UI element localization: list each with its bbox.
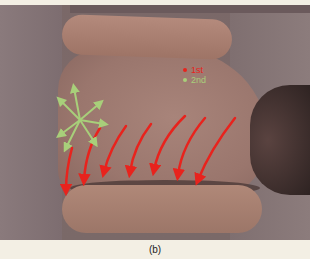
- figure-caption: (b): [0, 240, 310, 259]
- legend-label: 1st: [191, 65, 203, 75]
- red-arrows-icon: [66, 116, 235, 190]
- green-arrows-icon: [60, 88, 104, 148]
- green-dot-icon: [183, 78, 187, 82]
- arrow-overlay: [0, 5, 310, 240]
- massage-photo: 1st 2nd: [0, 5, 310, 240]
- legend-item-2nd: 2nd: [183, 75, 206, 85]
- legend: 1st 2nd: [183, 65, 206, 85]
- legend-label: 2nd: [191, 75, 206, 85]
- legend-item-1st: 1st: [183, 65, 206, 75]
- red-dot-icon: [183, 68, 187, 72]
